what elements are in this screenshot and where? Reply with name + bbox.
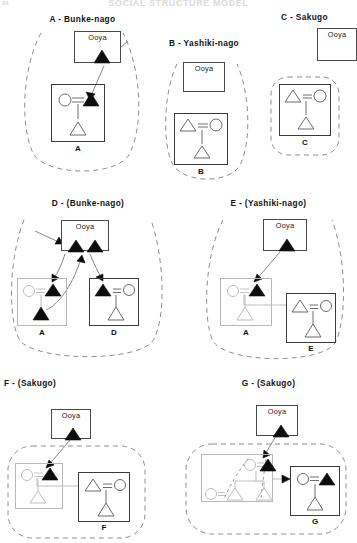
- figure-title: SOCIAL STRUCTURE MODEL: [0, 0, 357, 8]
- household-a-members: [52, 85, 106, 143]
- panel-e-household-e-label: E: [286, 344, 336, 353]
- open-triangle-icon: [305, 324, 321, 337]
- open-triangle-icon: [227, 488, 243, 500]
- filled-triangle-icon: [68, 240, 84, 252]
- household-e-a-members: [221, 279, 273, 327]
- filled-triangle-icon: [45, 284, 61, 296]
- ooya-members-a: [75, 32, 122, 64]
- panel-d-household-d: [89, 278, 139, 326]
- panel-e-ooya-box: Ooya: [263, 219, 307, 251]
- panel-f-ooya-box: Ooya: [51, 409, 91, 439]
- panel-e: E - (Yashiki-nago) Ooya A: [180, 198, 357, 373]
- panel-d-household-a-label: A: [17, 328, 67, 337]
- household-g-origin-members: [202, 455, 274, 503]
- open-triangle-icon: [298, 117, 314, 129]
- filled-triangle-icon: [279, 239, 295, 251]
- open-triangle-icon: [292, 300, 308, 312]
- open-triangle-icon: [108, 307, 124, 320]
- panel-e-household-a: [220, 278, 272, 326]
- filled-triangle-icon: [42, 468, 58, 480]
- open-triangle-icon: [98, 503, 114, 516]
- circle-icon: [298, 474, 309, 485]
- panel-e-household-a-label: A: [220, 328, 272, 337]
- panel-g: G - (Sakugo) Ooya: [180, 378, 357, 543]
- filled-triangle-icon: [87, 240, 103, 252]
- panel-f: F - (Sakugo) Ooya: [0, 378, 174, 543]
- ooya-members-e: [264, 220, 308, 252]
- household-f-a-members: [16, 464, 64, 510]
- panel-a-ooya-box: Ooya: [74, 31, 121, 63]
- filled-triangle-icon: [95, 284, 111, 296]
- panel-a-household-label: A: [51, 144, 105, 153]
- panel-c-ooya-box: Ooya: [317, 28, 357, 61]
- open-triangle-icon: [307, 497, 323, 510]
- panel-d-ooya-box: Ooya: [61, 220, 109, 251]
- panel-b-ooya-box: Ooya: [183, 62, 225, 92]
- household-d-a-members: [18, 279, 68, 327]
- circle-icon: [22, 470, 33, 481]
- panel-g-household-origin: [201, 454, 273, 502]
- panel-a-household-a: [51, 84, 105, 142]
- panel-c-household-c: [279, 84, 331, 136]
- open-triangle-icon: [30, 491, 46, 503]
- household-b-members: [175, 114, 229, 166]
- circle-icon: [59, 94, 71, 106]
- ooya-members-d: [62, 221, 110, 252]
- panel-d-household-d-label: D: [89, 328, 139, 337]
- filled-triangle-icon: [273, 425, 289, 437]
- filled-triangle-icon: [33, 307, 49, 320]
- filled-triangle-icon: [319, 473, 335, 485]
- panel-c-household-label: C: [279, 138, 331, 147]
- panel-d: D - (Bunke-nago) Ooya: [2, 198, 174, 370]
- filled-triangle-icon: [65, 428, 81, 440]
- open-triangle-icon: [237, 307, 253, 320]
- household-f-f-members: [79, 473, 131, 523]
- panel-g-household-g-label: G: [290, 517, 340, 526]
- circle-icon: [124, 285, 135, 296]
- panel-b-household-label: B: [174, 167, 228, 176]
- household-g-g-members: [291, 467, 341, 517]
- circle-icon: [210, 119, 222, 131]
- panel-g-ooya-box: Ooya: [256, 405, 298, 436]
- open-triangle-icon: [85, 479, 101, 491]
- ooya-label: Ooya: [184, 64, 224, 73]
- panel-f-household-a: [15, 463, 63, 509]
- filled-triangle-icon: [94, 50, 110, 63]
- open-triangle-icon: [70, 122, 86, 135]
- panel-g-household-g: [290, 466, 340, 516]
- open-triangle-icon: [194, 146, 210, 158]
- circle-icon: [206, 489, 217, 500]
- panel-f-household-f: [78, 472, 130, 522]
- circle-icon: [228, 286, 239, 297]
- panel-c: C - Sakugo Ooya C: [252, 12, 357, 177]
- household-e-e-members: [287, 294, 337, 344]
- ooya-members-f: [52, 410, 92, 440]
- panel-e-household-e: [286, 293, 336, 343]
- filled-triangle-icon: [260, 459, 276, 471]
- open-triangle-icon: [285, 90, 301, 102]
- circle-icon: [314, 90, 326, 102]
- household-d-d-members: [90, 279, 140, 327]
- panel-d-household-a: [17, 278, 67, 326]
- panel-b-household-b: [174, 113, 228, 165]
- circle-icon: [245, 460, 256, 471]
- panel-b: B - Yashiki-nago Ooya B: [148, 38, 260, 190]
- circle-icon: [321, 301, 332, 312]
- figure-canvas: 24 SOCIAL STRUCTURE MODEL A - Bunke-nago…: [0, 0, 357, 543]
- filled-triangle-icon: [83, 93, 99, 106]
- open-triangle-icon: [180, 119, 196, 131]
- circle-icon: [24, 286, 35, 297]
- circle-icon: [115, 480, 126, 491]
- panel-a: A - Bunke-nago Ooya A: [0, 14, 165, 189]
- ooya-members-g: [257, 406, 299, 437]
- open-triangle-icon: [256, 488, 272, 500]
- panel-f-household-f-label: F: [78, 523, 130, 532]
- household-c-members: [280, 85, 332, 137]
- filled-triangle-icon: [249, 284, 265, 296]
- ooya-label: Ooya: [318, 30, 356, 39]
